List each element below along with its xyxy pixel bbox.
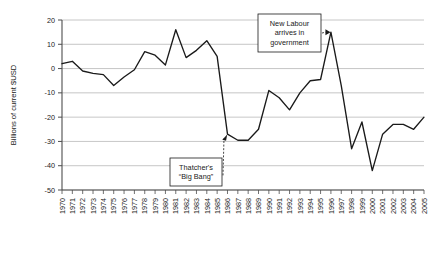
y-tick-label--30: -30: [45, 137, 55, 146]
annotation-text-thatcher-line-1: “Big Bang”: [179, 172, 214, 181]
x-tick-label-1972: 1972: [78, 198, 87, 214]
x-tick-label-1991: 1991: [275, 198, 284, 214]
x-tick-label-1980: 1980: [161, 198, 170, 214]
annotation-text-new-labour-line-0: New Labour: [270, 19, 310, 28]
x-tick-label-1999: 1999: [358, 198, 367, 214]
x-tick-label-1997: 1997: [337, 198, 346, 214]
x-tick-label-1994: 1994: [306, 198, 315, 214]
x-tick-label-1981: 1981: [171, 198, 180, 214]
x-tick-label-2000: 2000: [368, 198, 377, 214]
y-tick-label--50: -50: [45, 186, 55, 195]
x-tick-label-1992: 1992: [285, 198, 294, 214]
x-tick-label-2003: 2003: [399, 198, 408, 214]
x-tick-label-1998: 1998: [347, 198, 356, 214]
annotation-arrowhead-new-labour: [325, 29, 330, 35]
line-chart: 20100-10-20-30-40-50Billions of current …: [0, 0, 446, 256]
x-tick-label-1989: 1989: [254, 198, 263, 214]
x-tick-label-1988: 1988: [244, 198, 253, 214]
annotation-arrowhead-thatcher: [222, 135, 227, 141]
x-tick-label-2004: 2004: [409, 198, 418, 214]
y-tick-label--20: -20: [45, 113, 55, 122]
x-tick-label-1987: 1987: [234, 198, 243, 214]
annotation-arrow-new-labour: [322, 32, 326, 33]
y-tick-label-0: 0: [51, 64, 55, 73]
chart-canvas: 20100-10-20-30-40-50Billions of current …: [0, 0, 446, 256]
x-tick-label-1971: 1971: [68, 198, 77, 214]
x-tick-label-2001: 2001: [378, 198, 387, 214]
x-tick-label-1995: 1995: [316, 198, 325, 214]
y-tick-label-10: 10: [47, 40, 55, 49]
x-tick-label-1982: 1982: [182, 198, 191, 214]
annotation-arrow-thatcher: [223, 138, 224, 175]
y-tick-label--40: -40: [45, 161, 55, 170]
x-tick-label-2005: 2005: [420, 198, 429, 214]
annotation-text-new-labour-line-2: government: [270, 38, 309, 47]
x-tick-label-1977: 1977: [130, 198, 139, 214]
y-axis-title: Billions of current $USD: [9, 64, 18, 145]
x-tick-label-1979: 1979: [151, 198, 160, 214]
x-tick-label-1984: 1984: [203, 198, 212, 214]
x-tick-label-1970: 1970: [58, 198, 67, 214]
x-tick-label-1976: 1976: [120, 198, 129, 214]
x-tick-label-1978: 1978: [140, 198, 149, 214]
x-tick-label-1990: 1990: [265, 198, 274, 214]
x-tick-label-1985: 1985: [213, 198, 222, 214]
x-tick-label-2002: 2002: [389, 198, 398, 214]
annotation-text-thatcher-line-0: Thatcher's: [179, 163, 213, 172]
x-tick-label-1975: 1975: [109, 198, 118, 214]
annotation-text-new-labour-line-1: arrives in: [275, 28, 305, 37]
x-tick-label-1973: 1973: [89, 198, 98, 214]
x-tick-label-1974: 1974: [99, 198, 108, 214]
x-tick-label-1993: 1993: [296, 198, 305, 214]
x-tick-label-1996: 1996: [327, 198, 336, 214]
x-tick-label-1986: 1986: [223, 198, 232, 214]
data-series-line: [62, 30, 424, 171]
y-tick-label--10: -10: [45, 88, 55, 97]
x-tick-label-1983: 1983: [192, 198, 201, 214]
y-tick-label-20: 20: [47, 16, 55, 25]
